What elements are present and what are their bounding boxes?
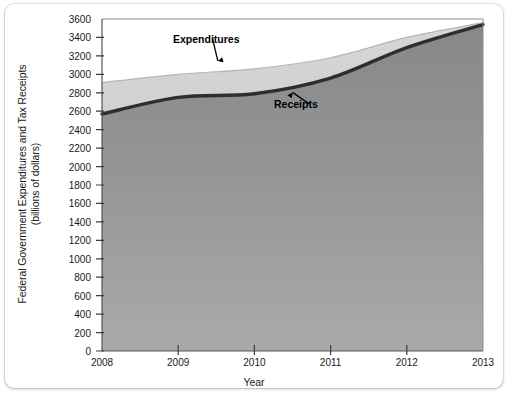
x-axis-tick-labels: 200820092010201120122013 (5, 4, 503, 388)
x-axis-tick-label: 2010 (243, 357, 265, 368)
x-axis-tick-label: 2008 (91, 357, 113, 368)
x-axis-tick-label: 2009 (167, 357, 189, 368)
chart-card: Federal Government Expenditures and Tax … (5, 4, 503, 388)
x-axis-tick-label: 2013 (472, 357, 494, 368)
x-axis-tick-label: 2012 (396, 357, 418, 368)
x-axis-tick-label: 2011 (320, 357, 342, 368)
x-axis-title: Year (5, 376, 503, 388)
